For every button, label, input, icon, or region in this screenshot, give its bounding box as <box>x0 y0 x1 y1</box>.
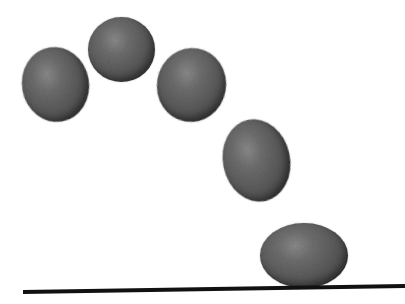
bouncing-ball-diagram: Bouncing ball squash and stretch <box>0 0 405 304</box>
ball-1-rising <box>15 41 94 126</box>
ball-4-stretch <box>215 112 298 207</box>
ground-line <box>23 284 405 294</box>
ball-2-apex <box>88 17 155 82</box>
ball-5-squash <box>260 223 348 288</box>
ball-3-falling <box>151 43 232 128</box>
